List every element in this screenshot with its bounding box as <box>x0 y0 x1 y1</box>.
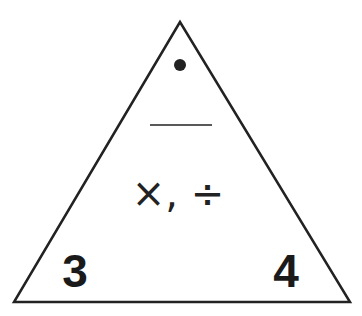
operations-label: ×, ÷ <box>132 170 224 216</box>
bottom-right-number: 4 <box>273 245 299 297</box>
top-value-dot <box>174 59 186 71</box>
fact-triangle-diagram: ×, ÷ 3 4 <box>0 0 362 316</box>
bottom-left-number: 3 <box>62 245 88 297</box>
